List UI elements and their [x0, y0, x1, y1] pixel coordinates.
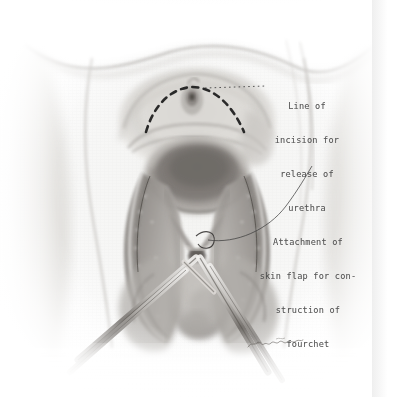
artist-signature	[246, 336, 304, 350]
illustration-plate: Line of incision for release of urethra …	[0, 0, 396, 397]
annotation-line: skin flap for con-	[256, 271, 360, 282]
annotation-line: struction of	[256, 305, 360, 316]
annotation-line: Attachment of	[256, 237, 360, 248]
scan-edge-shadow	[372, 0, 396, 397]
annotation-line: incision for	[268, 135, 346, 146]
annotation-line: Line of	[268, 101, 346, 112]
annotation-line: release of	[268, 169, 346, 180]
